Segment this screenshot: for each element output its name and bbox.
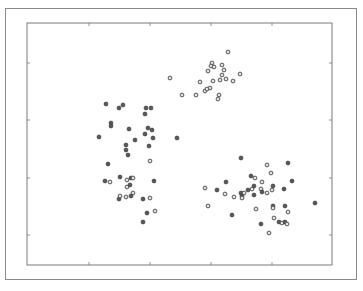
data-point-cluster-top — [206, 69, 210, 73]
data-point-cluster-bottom-right — [269, 171, 273, 175]
data-point-cluster-left — [121, 103, 125, 107]
data-point-cluster-bottom-right — [271, 184, 275, 188]
data-point-cluster-left — [127, 127, 131, 131]
data-point-cluster-left-lower — [153, 209, 157, 213]
data-point-cluster-top — [217, 93, 221, 97]
data-point-cluster-left-lower — [148, 196, 152, 200]
scatter-plot — [0, 0, 363, 291]
data-point-cluster-left — [126, 153, 130, 157]
data-points — [97, 50, 317, 235]
data-point-cluster-top — [231, 79, 235, 83]
data-point-cluster-top — [205, 87, 209, 91]
data-point-cluster-bottom-right — [254, 207, 258, 211]
data-point-cluster-top — [180, 93, 184, 97]
data-point-cluster-left — [109, 124, 113, 128]
data-point-cluster-bottom-right — [267, 231, 271, 235]
data-point-cluster-top — [194, 93, 198, 97]
data-point-cluster-bottom-right — [271, 206, 275, 210]
data-point-cluster-left — [133, 138, 137, 142]
data-point-cluster-top — [212, 65, 216, 69]
data-point-cluster-bottom-right — [230, 213, 234, 217]
data-point-cluster-left-lower — [129, 194, 133, 198]
data-point-cluster-left-lower — [118, 175, 122, 179]
plot-axes — [27, 23, 332, 265]
data-point-cluster-bottom-right — [239, 156, 243, 160]
data-point-cluster-bottom-right — [286, 161, 290, 165]
data-point-cluster-left — [175, 136, 179, 140]
data-point-cluster-bottom-right — [252, 184, 256, 188]
data-point-cluster-left-lower — [148, 159, 152, 163]
data-point-cluster-left-lower — [118, 194, 122, 198]
data-point-cluster-left — [104, 102, 108, 106]
data-point-cluster-top — [211, 79, 215, 83]
data-point-cluster-left-lower — [152, 179, 156, 183]
data-point-cluster-bottom-right — [252, 193, 256, 197]
data-point-cluster-bottom-right — [286, 210, 290, 214]
data-point-cluster-bottom-right — [223, 192, 227, 196]
data-point-cluster-left — [143, 132, 147, 136]
data-point-cluster-bottom-right — [249, 174, 253, 178]
data-point-cluster-top — [168, 76, 172, 80]
data-point-cluster-left-lower — [128, 183, 132, 187]
data-point-cluster-bottom-right — [215, 188, 219, 192]
data-point-cluster-left — [117, 106, 121, 110]
data-point-cluster-left — [150, 128, 154, 132]
data-point-cluster-bottom-right — [313, 201, 317, 205]
data-point-cluster-bottom-right — [240, 196, 244, 200]
data-point-cluster-top — [220, 63, 224, 67]
data-point-cluster-bottom-right — [290, 179, 294, 183]
data-point-cluster-bottom-right — [282, 187, 286, 191]
data-point-cluster-left — [143, 112, 147, 116]
data-point-cluster-bottom-right — [246, 188, 250, 192]
data-point-cluster-bottom-right — [283, 204, 287, 208]
data-point-cluster-left-lower — [141, 197, 145, 201]
data-point-cluster-left — [146, 126, 150, 130]
data-point-cluster-top — [222, 68, 226, 72]
data-point-cluster-left-lower — [125, 178, 129, 182]
data-point-cluster-top — [198, 80, 202, 84]
data-point-cluster-left — [124, 143, 128, 147]
data-point-cluster-bottom-right — [232, 195, 236, 199]
data-point-cluster-left — [144, 106, 148, 110]
data-point-cluster-left-lower — [108, 180, 112, 184]
plot-area-border — [27, 23, 332, 265]
data-point-cluster-bottom-right — [253, 176, 257, 180]
data-point-cluster-bottom-right — [265, 163, 269, 167]
data-point-cluster-bottom-right — [224, 180, 228, 184]
data-point-cluster-bottom-right — [285, 222, 289, 226]
data-point-cluster-top — [238, 72, 242, 76]
data-point-cluster-left — [151, 136, 155, 140]
data-point-cluster-bottom-right — [272, 216, 276, 220]
data-point-cluster-left — [97, 135, 101, 139]
data-point-cluster-left-lower — [106, 162, 110, 166]
data-point-cluster-left — [147, 144, 151, 148]
data-point-cluster-bottom-right — [259, 222, 263, 226]
data-point-cluster-top — [220, 73, 224, 77]
data-point-cluster-bottom-right — [260, 190, 264, 194]
data-point-cluster-top — [216, 97, 220, 101]
data-point-cluster-bottom-right — [270, 188, 274, 192]
data-point-cluster-left-lower — [103, 179, 107, 183]
data-point-cluster-bottom-right — [260, 180, 264, 184]
data-point-cluster-bottom-right — [203, 186, 207, 190]
data-point-cluster-left — [149, 106, 153, 110]
data-point-cluster-top — [224, 77, 228, 81]
data-point-cluster-top — [218, 78, 222, 82]
data-point-cluster-top — [226, 50, 230, 54]
data-point-cluster-left-lower — [124, 195, 128, 199]
data-point-cluster-bottom-right — [265, 191, 269, 195]
data-point-cluster-left — [124, 148, 128, 152]
data-point-cluster-left-lower — [145, 211, 149, 215]
data-point-cluster-bottom-right — [206, 204, 210, 208]
data-point-cluster-left-lower — [141, 220, 145, 224]
data-point-cluster-left-lower — [131, 176, 135, 180]
